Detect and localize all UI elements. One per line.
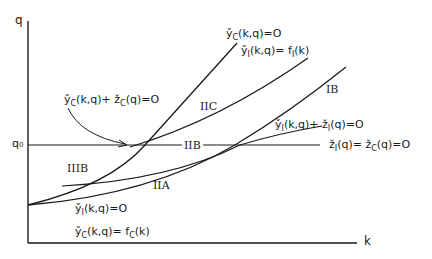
label-yC-zC: y̌C(k,q)+ žC(q)=O [64, 94, 159, 110]
curve-IB [28, 67, 346, 205]
curve-yC-zero [28, 43, 237, 205]
q0-label: q₀ [12, 137, 23, 150]
region-IB: IB [326, 83, 338, 96]
label-yI-zI: y̌I(k,q)+ žI(q)=O [275, 119, 364, 135]
phase-diagram: q k q₀ y̌C(k,q)=O y̌I(k,q)= fI(k) y̌C(k,… [0, 0, 432, 259]
arrow-yC-zC [68, 108, 125, 144]
label-yI-zero: y̌I(k,q)=O [75, 203, 127, 219]
region-IIA: IIA [153, 179, 170, 192]
k-axis-label: k [364, 234, 371, 248]
label-zI-zC: žI(q)= žC(q)=O [329, 139, 410, 155]
region-IIIB: IIIB [67, 162, 88, 175]
label-yI-fI: y̌I(k,q)= fI(k) [241, 45, 309, 61]
curve-yI-zI [62, 126, 322, 186]
q-axis-label: q [15, 13, 23, 27]
label-yC-fC: y̌C(k,q)= fC(k) [75, 226, 150, 242]
region-IIC: IIC [200, 100, 217, 113]
label-yC-zero: y̌C(k,q)=O [226, 28, 281, 44]
diagram-curves [0, 0, 432, 259]
region-IIB: IIB [182, 139, 203, 152]
